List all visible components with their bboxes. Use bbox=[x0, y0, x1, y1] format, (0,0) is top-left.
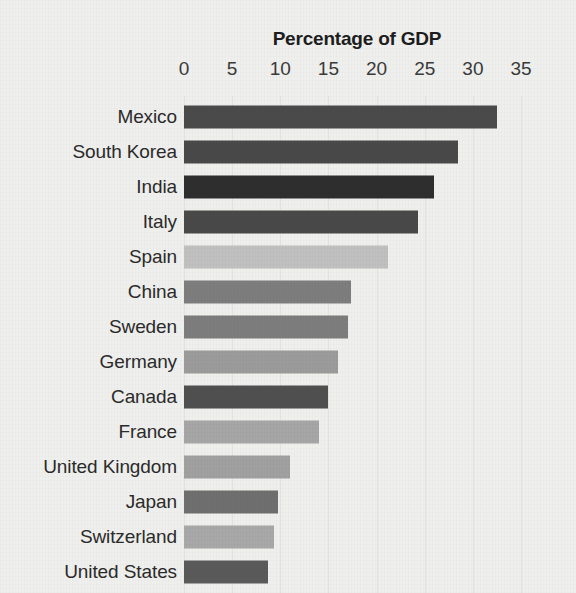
category-label: Switzerland bbox=[80, 526, 177, 548]
bar bbox=[184, 280, 351, 303]
x-tick-label: 10 bbox=[270, 58, 291, 80]
bar-row: Canada bbox=[0, 379, 576, 414]
x-tick-label: 20 bbox=[366, 58, 387, 80]
bar bbox=[184, 140, 458, 163]
top-bleed-label: · · · bbox=[10, 0, 35, 6]
bar bbox=[184, 490, 278, 513]
category-label: United States bbox=[64, 561, 177, 583]
category-label: Canada bbox=[111, 386, 177, 408]
category-label: India bbox=[136, 176, 177, 198]
plot-area: MexicoSouth KoreaIndiaItalySpainChinaSwe… bbox=[0, 96, 576, 593]
bar bbox=[184, 245, 388, 268]
bar-row: South Korea bbox=[0, 134, 576, 169]
bar bbox=[184, 385, 328, 408]
bar-row: Spain bbox=[0, 239, 576, 274]
bar bbox=[184, 210, 418, 233]
x-tick-label: 25 bbox=[414, 58, 435, 80]
category-label: Germany bbox=[100, 351, 177, 373]
bar-row: Italy bbox=[0, 204, 576, 239]
bar-row: Japan bbox=[0, 484, 576, 519]
bar bbox=[184, 175, 434, 198]
x-axis-tick-labels: 05101520253035 bbox=[0, 58, 576, 84]
category-label: Sweden bbox=[109, 316, 177, 338]
x-tick-label: 0 bbox=[179, 58, 190, 80]
category-label: South Korea bbox=[72, 141, 177, 163]
category-label: Japan bbox=[126, 491, 177, 513]
x-tick-label: 5 bbox=[227, 58, 238, 80]
bar bbox=[184, 350, 338, 373]
gdp-bar-chart: Percentage of GDP 05101520253035 MexicoS… bbox=[0, 0, 576, 593]
bar-row: Switzerland bbox=[0, 519, 576, 554]
x-tick-label: 35 bbox=[510, 58, 531, 80]
bar-row: France bbox=[0, 414, 576, 449]
category-label: United Kingdom bbox=[43, 456, 177, 478]
x-tick-label: 30 bbox=[462, 58, 483, 80]
x-tick-label: 15 bbox=[318, 58, 339, 80]
bar bbox=[184, 455, 290, 478]
bar-row: China bbox=[0, 274, 576, 309]
bar-row: United Kingdom bbox=[0, 449, 576, 484]
category-label: China bbox=[128, 281, 177, 303]
bar bbox=[184, 105, 497, 128]
bar-row: Mexico bbox=[0, 99, 576, 134]
bar bbox=[184, 420, 319, 443]
top-edge-bleed-text: · · · bbox=[0, 0, 576, 14]
category-label: France bbox=[118, 421, 177, 443]
bar bbox=[184, 315, 348, 338]
bar-row: India bbox=[0, 169, 576, 204]
bar bbox=[184, 560, 268, 583]
bar bbox=[184, 525, 274, 548]
chart-title: Percentage of GDP bbox=[183, 28, 531, 50]
bar-row: United States bbox=[0, 554, 576, 589]
bar-row: Germany bbox=[0, 344, 576, 379]
bar-row: Sweden bbox=[0, 309, 576, 344]
category-label: Italy bbox=[143, 211, 177, 233]
category-label: Spain bbox=[129, 246, 177, 268]
bar-rows: MexicoSouth KoreaIndiaItalySpainChinaSwe… bbox=[0, 96, 576, 593]
category-label: Mexico bbox=[117, 106, 177, 128]
